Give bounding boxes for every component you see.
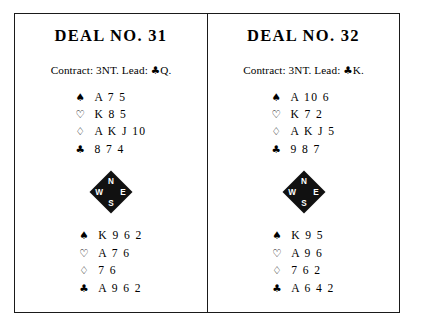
heart-icon: ♡ <box>79 246 92 261</box>
north-clubs-31: 8 7 4 <box>94 142 146 158</box>
north-spades-32: A 10 6 <box>291 90 336 106</box>
heart-icon: ♡ <box>272 107 285 122</box>
contract-line-32: Contract: 3NT. Lead: ♣K. <box>243 64 364 76</box>
south-hand-31: ♠ K 9 6 2 ♡ A 7 6 ♢ 7 6 ♣ A 9 6 2 <box>79 228 142 297</box>
deal-panel-31: DEAL NO. 31 Contract: 3NT. Lead: ♣Q. ♠ A… <box>15 14 207 312</box>
north-clubs-32: 9 8 7 <box>291 142 336 158</box>
spade-icon: ♠ <box>272 228 285 243</box>
south-diamonds-32: 7 6 2 <box>291 263 335 279</box>
compass-diamond-icon: N W E S <box>88 169 134 215</box>
compass-north-label-31: N <box>108 177 114 186</box>
south-spades-31: K 9 6 2 <box>98 228 142 244</box>
north-diamonds-31: A K J 10 <box>94 124 146 140</box>
north-spades-31: A 7 5 <box>94 90 146 106</box>
lead-rank-32: K. <box>353 64 364 76</box>
south-spades-32: K 9 5 <box>291 228 335 244</box>
compass-south-label-31: S <box>108 199 114 208</box>
south-diamonds-31: 7 6 <box>98 263 142 279</box>
spade-icon: ♠ <box>75 90 88 105</box>
compass-west-label-31: W <box>95 188 103 197</box>
south-hearts-31: A 7 6 <box>98 246 142 262</box>
club-icon: ♣ <box>272 142 285 157</box>
north-hearts-32: K 7 2 <box>291 107 336 123</box>
contract-text-31: Contract: 3NT. Lead: <box>51 64 151 76</box>
contract-line-31: Contract: 3NT. Lead: ♣Q. <box>51 64 172 76</box>
south-clubs-31: A 9 6 2 <box>98 281 142 297</box>
compass-east-label-32: E <box>313 188 319 197</box>
north-hand-31: ♠ A 7 5 ♡ K 8 5 ♢ A K J 10 ♣ 8 7 4 <box>75 90 146 159</box>
spade-icon: ♠ <box>272 90 285 105</box>
north-hand-32: ♠ A 10 6 ♡ K 7 2 ♢ A K J 5 ♣ 9 8 7 <box>272 90 336 159</box>
club-icon: ♣ <box>79 281 92 296</box>
north-diamonds-32: A K J 5 <box>291 124 336 140</box>
compass-rose-32: N W E S <box>281 169 327 215</box>
south-hearts-32: A 9 6 <box>291 246 335 262</box>
diamond-icon: ♢ <box>79 263 92 278</box>
lead-rank-31: Q. <box>160 64 171 76</box>
lead-suit-icon-31: ♣ <box>151 64 161 76</box>
spade-icon: ♠ <box>79 228 92 243</box>
lead-suit-icon-32: ♣ <box>343 64 353 76</box>
compass-diamond-icon: N W E S <box>281 169 327 215</box>
contract-text-32: Contract: 3NT. Lead: <box>243 64 343 76</box>
diamond-icon: ♢ <box>272 124 285 139</box>
compass-south-label-32: S <box>301 199 307 208</box>
bridge-deals-page: DEAL NO. 31 Contract: 3NT. Lead: ♣Q. ♠ A… <box>0 0 421 324</box>
club-icon: ♣ <box>272 281 285 296</box>
club-icon: ♣ <box>75 142 88 157</box>
diamond-icon: ♢ <box>272 263 285 278</box>
compass-east-label-31: E <box>120 188 126 197</box>
compass-rose-31: N W E S <box>88 169 134 215</box>
south-hand-32: ♠ K 9 5 ♡ A 9 6 ♢ 7 6 2 ♣ A 6 4 2 <box>272 228 335 297</box>
diamond-icon: ♢ <box>75 124 88 139</box>
north-hearts-31: K 8 5 <box>94 107 146 123</box>
compass-west-label-32: W <box>288 188 296 197</box>
page-border-frame: DEAL NO. 31 Contract: 3NT. Lead: ♣Q. ♠ A… <box>14 13 400 313</box>
deal-title-32: DEAL NO. 32 <box>247 28 360 45</box>
heart-icon: ♡ <box>272 246 285 261</box>
south-clubs-32: A 6 4 2 <box>291 281 335 297</box>
heart-icon: ♡ <box>75 107 88 122</box>
deal-panel-32: DEAL NO. 32 Contract: 3NT. Lead: ♣K. ♠ A… <box>207 14 399 312</box>
compass-north-label-32: N <box>301 177 307 186</box>
deal-title-31: DEAL NO. 31 <box>55 28 168 45</box>
